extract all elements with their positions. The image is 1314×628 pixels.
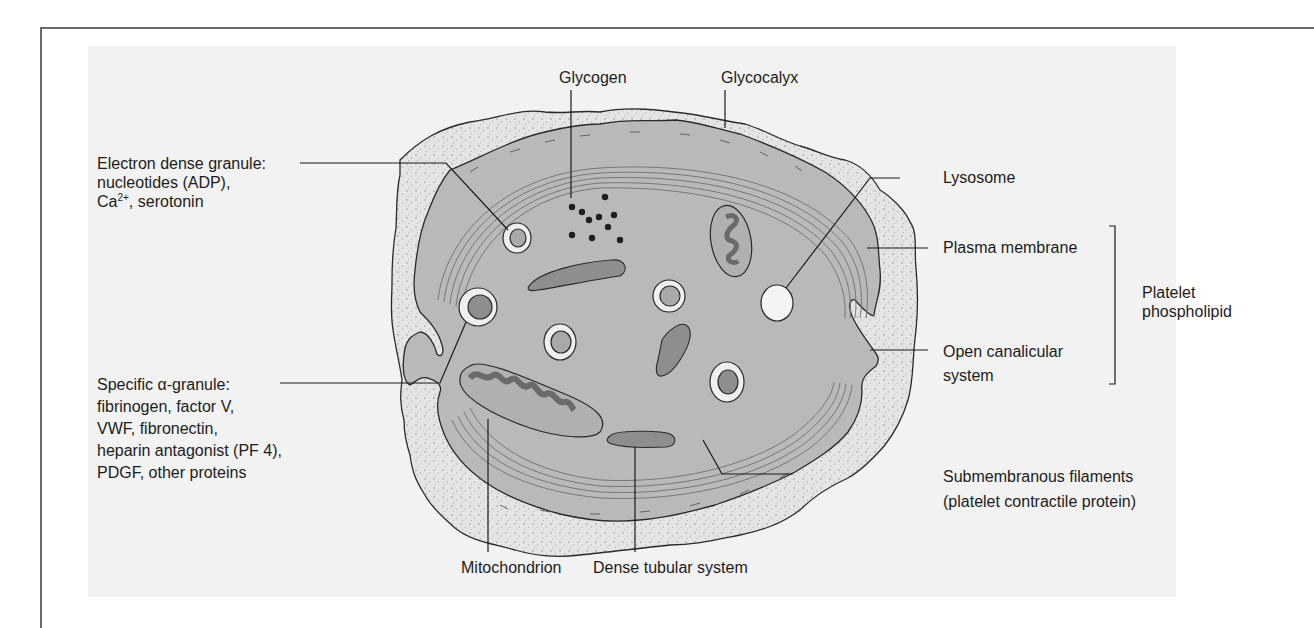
- serotonin-text: , serotonin: [129, 193, 204, 210]
- label-lysosome: Lysosome: [943, 168, 1015, 187]
- calcium-symbol: Ca: [97, 193, 117, 210]
- label-alpha-granule: Specific α-granule: fibrinogen, factor V…: [97, 374, 282, 484]
- label-alpha-granule-line2: fibrinogen, factor V,: [97, 396, 282, 418]
- label-alpha-granule-line5: PDGF, other proteins: [97, 462, 282, 484]
- label-electron-dense-granule-line1: Electron dense granule:: [97, 154, 266, 173]
- label-platelet-phospholipid-line2: phospholipid: [1142, 302, 1232, 321]
- label-platelet-phospholipid: Platelet phospholipid: [1142, 283, 1232, 321]
- label-electron-dense-granule: Electron dense granule: nucleotides (ADP…: [97, 154, 266, 211]
- calcium-charge: 2+: [117, 192, 128, 203]
- lysosome-organelle: [761, 285, 793, 321]
- label-submembranous-line2: (platelet contractile protein): [943, 489, 1136, 514]
- label-dense-tubular-system: Dense tubular system: [593, 558, 748, 577]
- label-alpha-granule-line3: VWF, fibronectin,: [97, 418, 282, 440]
- label-submembranous-filaments: Submembranous filaments (platelet contra…: [943, 464, 1136, 514]
- label-open-canalicular-line2: system: [943, 364, 1063, 388]
- platelet-illustration: [0, 0, 1314, 628]
- label-electron-dense-granule-line3: Ca2+, serotonin: [97, 192, 266, 211]
- label-open-canalicular-system: Open canalicular system: [943, 340, 1063, 388]
- label-alpha-granule-line4: heparin antagonist (PF 4),: [97, 440, 282, 462]
- label-alpha-granule-line1: Specific α-granule:: [97, 374, 282, 396]
- label-submembranous-line1: Submembranous filaments: [943, 464, 1136, 489]
- label-plasma-membrane: Plasma membrane: [943, 238, 1077, 257]
- label-platelet-phospholipid-line1: Platelet: [1142, 283, 1232, 302]
- label-glycocalyx: Glycocalyx: [721, 68, 798, 87]
- label-open-canalicular-line1: Open canalicular: [943, 340, 1063, 364]
- label-mitochondrion: Mitochondrion: [461, 558, 562, 577]
- label-glycogen: Glycogen: [559, 68, 627, 87]
- label-electron-dense-granule-line2: nucleotides (ADP),: [97, 173, 266, 192]
